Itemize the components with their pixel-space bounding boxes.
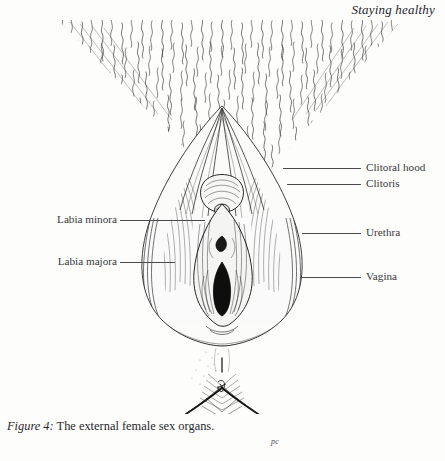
label-clitoral-hood: Clitoral hood [366,162,425,173]
leader-line-urethra [302,233,361,234]
leader-line-labia-minora [120,220,205,221]
figure-caption-text: The external female sex organs. [54,419,215,433]
label-clitoris: Clitoris [366,178,400,189]
figure-caption: Figure 4: The external female sex organs… [7,419,214,434]
leader-line-clitoral-hood [283,168,361,169]
figure-caption-lead: Figure 4: [7,419,54,433]
label-labia-majora: Labia majora [58,256,117,267]
leader-line-clitoris [287,184,361,185]
book-page: Staying healthy [0,0,445,461]
leader-line-labia-majora [120,262,175,263]
label-urethra: Urethra [366,227,400,238]
artist-signature: pc [271,437,279,446]
leader-line-vagina [300,277,361,278]
label-labia-minora: Labia minora [57,214,117,225]
label-vagina: Vagina [366,271,397,282]
